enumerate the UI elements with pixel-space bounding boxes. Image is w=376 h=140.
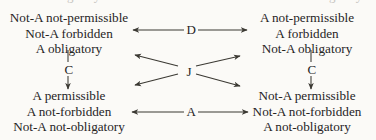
relation-label-j: J — [184, 65, 194, 78]
relation-label-c-right: C — [305, 63, 319, 76]
relation-label-c-left: C — [62, 63, 76, 76]
relation-label-d: D — [184, 23, 198, 36]
square-of-opposition-diagram: A not-obligatory Not-A not-obligatory — [0, 0, 376, 140]
relation-label-a: A — [184, 105, 198, 118]
